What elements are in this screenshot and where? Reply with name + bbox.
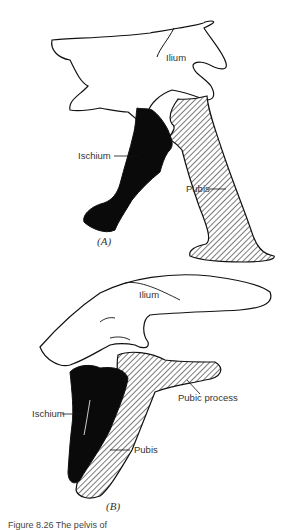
label-pubis-a: Pubis [186, 183, 210, 194]
label-ilium-b: Ilium [139, 289, 159, 300]
label-ischium-a: Ischium [78, 150, 111, 161]
label-pubic-process-b: Pubic process [178, 392, 238, 403]
panel-a [52, 21, 274, 262]
label-ilium-a: Ilium [166, 52, 186, 63]
label-ischium-b: Ischium [32, 408, 65, 419]
figure-caption: Figure 8.26 The pelvis of [8, 520, 107, 530]
panel-b [40, 275, 271, 498]
label-pubis-b: Pubis [134, 444, 158, 455]
panel-label-b: (B) [106, 500, 120, 512]
ischium-a [84, 108, 172, 232]
panel-label-a: (A) [97, 235, 111, 247]
pubis-a [168, 96, 274, 262]
